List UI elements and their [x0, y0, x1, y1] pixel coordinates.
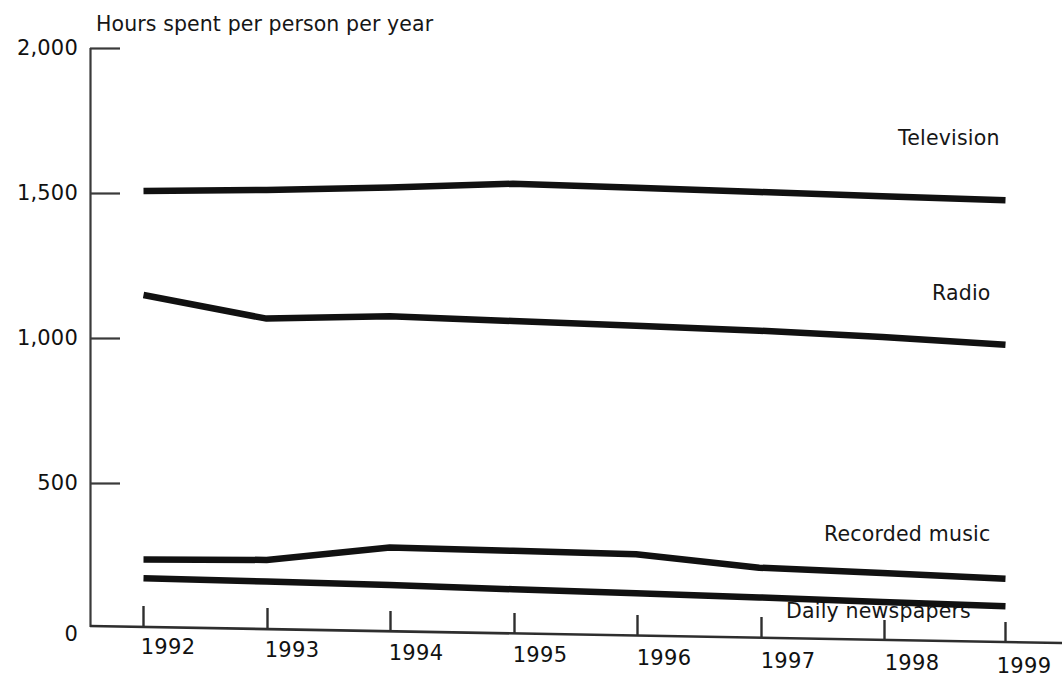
y-axis-ticks [90, 49, 120, 484]
plot-area [0, 0, 1062, 674]
line-chart: Hours spent per person per year 2,000 1,… [0, 0, 1062, 674]
series-lines-group [144, 184, 1006, 606]
x-axis-ticks [144, 606, 1006, 643]
series-line-radio [144, 295, 1006, 345]
x-axis-line [90, 626, 1062, 643]
series-line-television [144, 184, 1006, 200]
series-line-daily-newspapers [144, 578, 1006, 606]
series-line-recorded-music [144, 547, 1006, 578]
